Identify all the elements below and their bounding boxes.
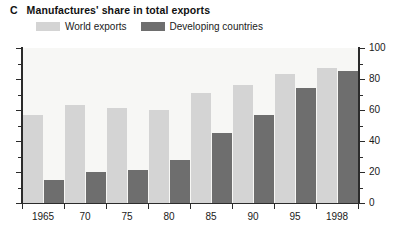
x-tick-label: 70 [79,211,90,222]
y-tick-right [359,172,365,173]
bar-world-exports [191,93,211,203]
bar-world-exports [317,68,337,203]
x-tick [190,203,191,209]
y-tick-label: 20 [369,167,380,177]
bar-world-exports [107,108,127,203]
y-tick-right [359,126,363,127]
x-tick-label: 90 [247,211,258,222]
y-tick-label: 40 [369,136,380,146]
bar-developing-countries [254,115,274,203]
bar-series-container [22,48,358,203]
bar-world-exports [149,110,169,203]
y-tick-right [359,188,363,189]
y-tick-label: 0 [369,198,375,208]
bar-developing-countries [296,88,316,203]
bar-world-exports [65,105,85,203]
x-tick [232,203,233,209]
x-tick [316,203,317,209]
x-tick [148,203,149,209]
y-tick-right [359,157,363,158]
x-tick-label: 80 [163,211,174,222]
x-tick [22,203,23,209]
y-tick-right [359,95,363,96]
x-tick-label: 85 [205,211,216,222]
y-tick-right [359,64,363,65]
x-tick [64,203,65,209]
y-tick-right [359,48,365,49]
y-tick-right [359,110,365,111]
y-tick-right [359,79,365,80]
bar-developing-countries [44,180,64,203]
y-tick-right [359,141,365,142]
bar-world-exports [23,115,43,203]
y-tick-label: 60 [369,105,380,115]
x-tick-label: 1998 [326,211,348,222]
x-tick [358,203,359,209]
x-tick [274,203,275,209]
x-tick [106,203,107,209]
bar-developing-countries [170,160,190,203]
y-tick-right [359,203,365,204]
bar-world-exports [233,85,253,203]
y-tick-label: 100 [369,43,386,53]
x-tick-label: 95 [289,211,300,222]
bar-world-exports [275,74,295,203]
bar-developing-countries [128,170,148,203]
x-tick-label: 75 [121,211,132,222]
bar-developing-countries [212,133,232,203]
bar-developing-countries [86,172,106,203]
bar-developing-countries [338,71,358,203]
x-tick-label: 1965 [32,211,54,222]
bar-chart: 020406080100 19657075808590951998 [0,0,401,232]
y-tick-label: 80 [369,74,380,84]
